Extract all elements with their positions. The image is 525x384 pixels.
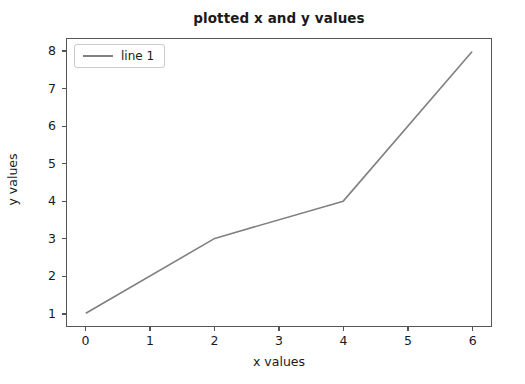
chart-figure: plotted x and y values 0123456 12345678 … [0, 0, 525, 384]
line-series-svg [67, 39, 491, 326]
y-axis-label: y values [5, 100, 20, 260]
y-tick-label: 2 [34, 268, 56, 283]
x-tick-mark [472, 327, 473, 331]
y-tick-label: 4 [34, 193, 56, 208]
y-tick-mark [62, 88, 66, 89]
x-axis-label: x values [66, 354, 492, 369]
x-tick-mark [85, 327, 86, 331]
x-tick-mark [278, 327, 279, 331]
x-tick-mark [214, 327, 215, 331]
y-tick-label: 7 [34, 81, 56, 96]
y-tick-label: 3 [34, 231, 56, 246]
x-tick-label: 4 [331, 333, 357, 348]
y-tick-label: 5 [34, 156, 56, 171]
x-tick-label: 0 [72, 333, 98, 348]
x-tick-label: 1 [137, 333, 163, 348]
y-tick-mark [62, 238, 66, 239]
x-tick-mark [407, 327, 408, 331]
x-tick-label: 5 [395, 333, 421, 348]
y-tick-mark [62, 50, 66, 51]
y-tick-label: 8 [34, 43, 56, 58]
legend-line-swatch [83, 55, 113, 57]
x-tick-label: 6 [460, 333, 486, 348]
x-tick-label: 3 [266, 333, 292, 348]
legend-item-label: line 1 [121, 49, 154, 63]
line-series-path [86, 52, 471, 313]
y-tick-mark [62, 313, 66, 314]
x-tick-mark [343, 327, 344, 331]
y-tick-label: 6 [34, 118, 56, 133]
y-tick-mark [62, 126, 66, 127]
y-tick-mark [62, 276, 66, 277]
x-tick-mark [149, 327, 150, 331]
y-tick-label: 1 [34, 306, 56, 321]
x-tick-label: 2 [201, 333, 227, 348]
y-tick-mark [62, 163, 66, 164]
y-tick-mark [62, 201, 66, 202]
chart-legend: line 1 [74, 44, 165, 68]
chart-title: plotted x and y values [66, 10, 492, 26]
plot-area [66, 38, 492, 327]
